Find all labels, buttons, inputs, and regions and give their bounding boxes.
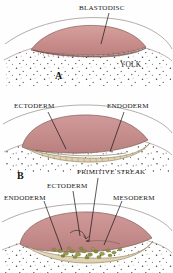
panel-letter-a: A: [55, 70, 62, 81]
label-endoderm-b: ENDODERM: [4, 195, 46, 202]
primitive-streak-groove: [86, 240, 90, 242]
panel-b-illustration: [2, 178, 172, 273]
panel-a-illustration: [4, 13, 172, 86]
label-endoderm-middle: ENDODERM: [107, 103, 149, 110]
label-mesoderm-b: MESODERM: [113, 195, 155, 202]
panel-middle-illustration: [3, 105, 172, 173]
label-yolk: YOLK: [120, 61, 141, 68]
embryo-gastrulation-figure: [0, 0, 173, 273]
label-ectoderm-middle: ECTODERM: [14, 103, 55, 110]
panel-letter-b: B: [17, 170, 24, 181]
blastodisc-mass: [31, 25, 146, 55]
label-primitive-streak: PRIMITIVE STREAK: [77, 169, 145, 176]
label-blastodisc: BLASTODISC: [79, 5, 125, 12]
label-ectoderm-b: ECTODERM: [47, 183, 88, 190]
